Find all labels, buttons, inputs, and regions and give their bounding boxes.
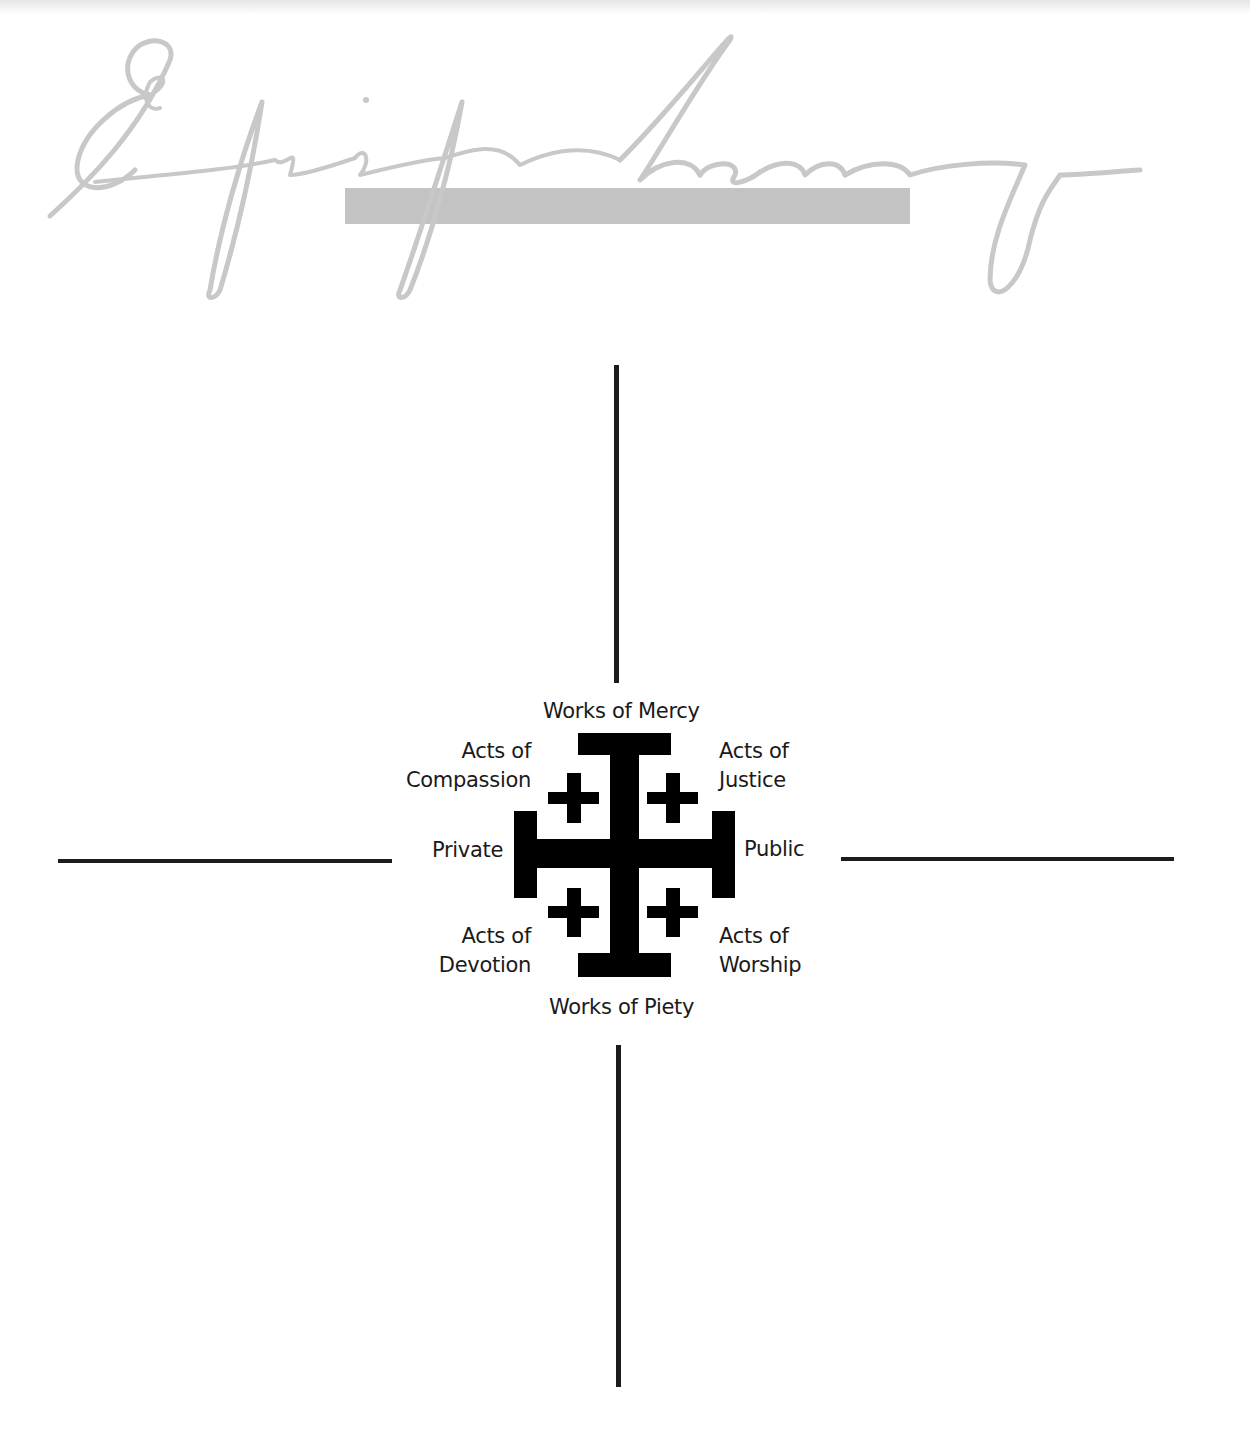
- small-cross-bottom-left: [548, 888, 599, 937]
- label-acts-of-compassion: Acts of Compassion: [406, 737, 531, 795]
- jerusalem-cross-icon: [500, 720, 750, 990]
- label-acts-of-worship: Acts of Worship: [719, 922, 801, 980]
- label-line: Compassion: [406, 766, 531, 795]
- label-acts-of-justice: Acts of Justice: [719, 737, 789, 795]
- label-works-of-piety: Works of Piety: [549, 993, 694, 1022]
- label-private: Private: [432, 836, 503, 865]
- label-public: Public: [744, 835, 804, 864]
- label-line: Justice: [719, 766, 789, 795]
- axis-line-right: [841, 857, 1174, 861]
- label-line: Acts of: [719, 737, 789, 766]
- label-line: Devotion: [439, 951, 531, 980]
- axis-line-left: [58, 859, 392, 863]
- label-line: Acts of: [439, 922, 531, 951]
- label-line: Acts of: [719, 922, 801, 951]
- small-cross-top-left: [548, 773, 599, 823]
- label-acts-of-devotion: Acts of Devotion: [439, 922, 531, 980]
- axis-line-top: [614, 365, 619, 683]
- label-line: Worship: [719, 951, 801, 980]
- script-title-epiphany: Epiphany: [0, 0, 1250, 320]
- small-cross-bottom-right: [647, 888, 698, 937]
- axis-line-bottom: [616, 1045, 621, 1387]
- label-works-of-mercy: Works of Mercy: [543, 697, 700, 726]
- label-line: Acts of: [406, 737, 531, 766]
- small-cross-top-right: [647, 773, 698, 823]
